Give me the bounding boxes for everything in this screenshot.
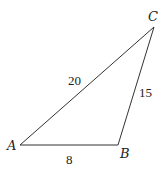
side-labels: 8 15 20 — [66, 73, 152, 167]
vertex-label-a: A — [6, 138, 16, 153]
vertex-label-b: B — [119, 146, 130, 161]
triangle-diagram: A B C 8 15 20 — [0, 0, 165, 172]
vertex-labels: A B C — [6, 9, 158, 161]
side-ac — [20, 27, 154, 145]
side-label-bc: 15 — [139, 85, 152, 100]
side-label-ab: 8 — [66, 152, 73, 167]
side-label-ac: 20 — [68, 73, 81, 88]
triangle-edges — [20, 27, 154, 145]
vertex-label-c: C — [148, 9, 158, 24]
